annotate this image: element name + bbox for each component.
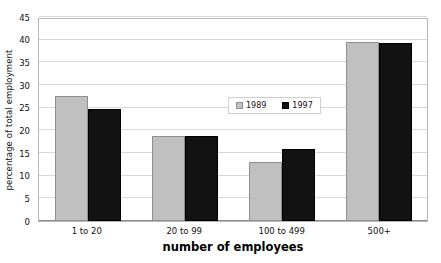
x-axis-tick-labels: 1 to 2020 to 99100 to 499500+ [38,226,428,237]
y-axis-tick-label: 45 [19,14,30,23]
bar-1997[interactable] [185,136,218,221]
bar-1989[interactable] [249,162,282,221]
bar-1989[interactable] [55,96,88,221]
bar-1997[interactable] [88,109,121,221]
y-axis-tick-labels: 051015202530354045 [0,0,34,263]
plot-area [38,18,428,222]
y-axis-tick-label: 25 [19,104,30,113]
legend-item-1989[interactable]: 1989 [236,102,266,110]
y-axis-tick-label: 35 [19,59,30,68]
y-axis-tick-label: 30 [19,82,30,91]
legend-label: 1989 [246,102,266,110]
chart-legend: 19891997 [228,97,321,114]
bar-group [233,19,330,221]
y-axis-tick-label: 5 [25,195,30,204]
legend-label: 1997 [292,102,312,110]
y-axis-tick-label: 40 [19,36,30,45]
bar-group [330,19,427,221]
bar-1989[interactable] [152,136,185,221]
y-axis-tick-label: 15 [19,150,30,159]
bar-chart: percentage of total employment 051015202… [0,0,441,263]
bar-group [39,19,136,221]
legend-swatch-icon [282,102,289,109]
y-axis-tick-label: 0 [25,218,30,227]
x-axis-tick-label: 500+ [331,226,429,237]
x-axis-tick-label: 100 to 499 [233,226,331,237]
x-axis-title: number of employees [38,240,428,254]
legend-swatch-icon [236,102,243,109]
y-axis-tick-label: 10 [19,172,30,181]
bar-group [136,19,233,221]
bar-1997[interactable] [379,43,412,221]
legend-item-1997[interactable]: 1997 [282,102,312,110]
y-axis-tick-label: 20 [19,127,30,136]
bar-groups [39,19,427,221]
x-axis-tick-label: 20 to 99 [136,226,234,237]
bar-1997[interactable] [282,149,315,221]
bar-1989[interactable] [346,42,379,221]
x-axis-tick-label: 1 to 20 [38,226,136,237]
gridline [39,16,427,17]
